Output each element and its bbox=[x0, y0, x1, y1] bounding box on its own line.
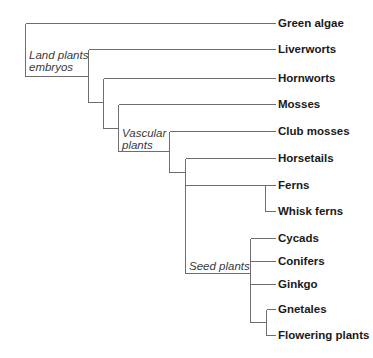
taxon-cycads: Cycads bbox=[278, 232, 319, 244]
taxon-gnetales: Gnetales bbox=[278, 303, 327, 315]
taxon-hornworts: Hornworts bbox=[278, 72, 336, 84]
taxon-conifers: Conifers bbox=[278, 255, 325, 267]
taxon-liverworts: Liverworts bbox=[278, 43, 336, 55]
clade-land-plants-line2: embryos bbox=[29, 61, 73, 73]
taxon-club-mosses: Club mosses bbox=[278, 125, 350, 137]
taxon-horsetails: Horsetails bbox=[278, 152, 334, 164]
taxon-ginkgo: Ginkgo bbox=[278, 278, 318, 290]
taxon-green-algae: Green algae bbox=[278, 17, 344, 29]
taxon-mosses: Mosses bbox=[278, 98, 320, 110]
clade-vascular-line1: Vascular bbox=[122, 127, 167, 139]
clade-seed-plants: Seed plants bbox=[189, 260, 250, 272]
branch-land-plants bbox=[89, 50, 277, 103]
taxon-whisk-ferns: Whisk ferns bbox=[278, 205, 343, 217]
taxon-ferns: Ferns bbox=[278, 179, 309, 191]
branch-ferns bbox=[266, 186, 277, 212]
phylogenetic-tree: Green algae Liverworts Hornworts Mosses … bbox=[0, 0, 373, 358]
branch-hornworts bbox=[104, 79, 277, 129]
branch-euphyllophytes bbox=[186, 159, 277, 274]
taxon-flowering-plants: Flowering plants bbox=[278, 329, 369, 341]
clade-vascular-line2: plants bbox=[121, 139, 153, 151]
clade-land-plants-line1: Land plants bbox=[29, 49, 89, 61]
branch-gnetales-angiosperms bbox=[267, 310, 277, 336]
